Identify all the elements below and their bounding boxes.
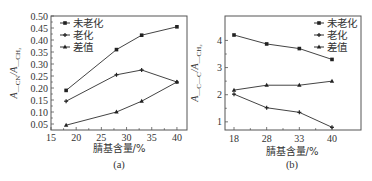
- legend-label: 未老化: [73, 17, 104, 29]
- x-tick-label: 15: [46, 132, 56, 143]
- ylabel-b-sub1: —C—C: [195, 72, 203, 97]
- y-tick-label: 2: [217, 89, 222, 100]
- y-tick-label: 0.15: [31, 95, 49, 106]
- y-tick-label: 0.50: [31, 11, 49, 22]
- ylabel-a-sub2: —CH₂: [14, 47, 22, 68]
- legend-a: 未老化老化差值: [60, 17, 104, 53]
- x-tick-label: 18: [229, 133, 239, 144]
- star-marker-icon: [64, 99, 68, 103]
- series-line: [66, 82, 177, 125]
- x-tick-label: 25: [96, 132, 106, 143]
- legend-label: 差值: [327, 41, 348, 53]
- x-axis-title-a: 腈基含量/%: [93, 142, 146, 154]
- legend-b: 未老化老化差值: [314, 17, 358, 53]
- legend-item: 老化: [60, 29, 94, 41]
- chart-panel-b: 123418283340 未老化老化差值 腈基含量/% (b) A—C—C/A—…: [189, 16, 361, 171]
- x-axis-title-b: 腈基含量/%: [266, 145, 319, 157]
- figure-canvas: 0.050.100.150.200.250.300.350.400.450.50…: [0, 0, 372, 181]
- square-marker-icon: [232, 33, 236, 37]
- y-tick-label: 0.10: [31, 107, 49, 118]
- plot-frame-a: [51, 16, 187, 130]
- x-tick-label: 35: [147, 132, 157, 143]
- legend-label: 老化: [73, 29, 94, 41]
- y-tick-label: 0.35: [31, 47, 49, 58]
- x-tick-label: 30: [122, 132, 132, 143]
- series-line: [234, 81, 332, 90]
- x-tick-label: 28: [262, 133, 272, 144]
- ylabel-a-sub1: —CN: [14, 76, 22, 94]
- y-tick-label: 0.30: [31, 59, 49, 70]
- legend-item: 未老化: [60, 17, 104, 29]
- y-tick-label: 3: [217, 62, 222, 73]
- x-tick-label: 20: [71, 132, 81, 143]
- panel-label-b: (b): [286, 159, 299, 171]
- svg-text:A—C—C/A—CH₂: A—C—C/A—CH₂: [189, 44, 203, 103]
- series-aged: [64, 68, 179, 103]
- y-tick-label: 4: [217, 35, 222, 46]
- star-marker-icon: [330, 125, 334, 129]
- y-tick-label: 1: [217, 116, 222, 127]
- legend-item: 老化: [314, 29, 348, 41]
- square-marker-icon: [298, 47, 302, 51]
- legend-label: 未老化: [327, 17, 358, 29]
- star-marker-icon: [232, 92, 236, 96]
- y-axis-title-b: A—C—C/A—CH₂: [189, 44, 203, 103]
- star-marker-icon: [265, 106, 269, 110]
- star-marker-icon: [114, 73, 118, 77]
- square-marker-icon: [64, 89, 68, 93]
- y-tick-label: 0.45: [31, 23, 49, 34]
- star-marker-icon: [140, 68, 144, 72]
- square-marker-icon: [140, 33, 144, 37]
- star-legend-icon: [63, 33, 67, 37]
- star-legend-icon: [317, 33, 321, 37]
- y-tick-label: 0.05: [31, 119, 49, 130]
- square-legend-icon: [317, 21, 321, 25]
- legend-label: 老化: [327, 29, 348, 41]
- triangle-marker-icon: [330, 79, 334, 83]
- series-difference: [64, 80, 179, 127]
- y-tick-label: 0.25: [31, 71, 49, 82]
- legend-item: 差值: [60, 41, 94, 53]
- square-legend-icon: [63, 21, 67, 25]
- x-tick-label: 40: [327, 133, 337, 144]
- series-line: [66, 70, 177, 101]
- series-line: [234, 94, 332, 127]
- star-marker-icon: [297, 110, 301, 114]
- series-difference: [232, 79, 334, 92]
- legend-label: 差值: [73, 41, 94, 53]
- axis-ticks-a: 0.050.100.150.200.250.300.350.400.450.50…: [31, 11, 182, 144]
- x-tick-label: 33: [294, 133, 304, 144]
- y-tick-label: 0.40: [31, 35, 49, 46]
- legend-item: 未老化: [314, 17, 358, 29]
- y-tick-label: 0.20: [31, 83, 49, 94]
- legend-item: 差值: [314, 41, 348, 53]
- square-marker-icon: [115, 48, 119, 52]
- ylabel-b-sub2: —CH₂: [195, 44, 203, 65]
- square-marker-icon: [330, 58, 334, 62]
- square-marker-icon: [175, 25, 179, 29]
- y-axis-title-a: A—CN/A—CH₂: [8, 47, 22, 99]
- series-aged: [232, 92, 334, 129]
- x-tick-label: 40: [172, 132, 182, 143]
- chart-panel-a: 0.050.100.150.200.250.300.350.400.450.50…: [8, 11, 187, 172]
- svg-text:A—CN/A—CH₂: A—CN/A—CH₂: [8, 47, 22, 99]
- panel-label-a: (a): [113, 159, 125, 171]
- square-marker-icon: [265, 42, 269, 46]
